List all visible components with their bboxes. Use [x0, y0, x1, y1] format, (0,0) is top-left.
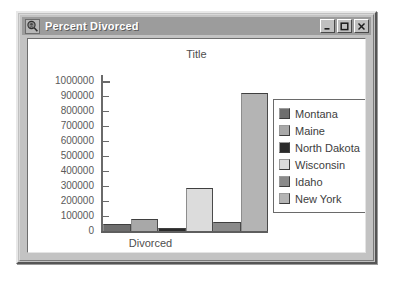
legend-swatch-icon [279, 108, 290, 119]
y-tick-label: 200000 [61, 196, 94, 206]
chart-title: Title [28, 48, 365, 60]
legend-item[interactable]: North Dakota [279, 139, 361, 156]
screenshot-root: Percent Divorced [0, 0, 399, 286]
application-window: Percent Divorced [16, 11, 377, 264]
x-axis-line [101, 231, 268, 233]
y-tick-label: 1000000 [55, 76, 94, 86]
y-tick-label: 100000 [61, 211, 94, 221]
window-controls [320, 19, 369, 33]
legend-item-label: Idaho [295, 176, 323, 188]
bar-montana[interactable] [103, 224, 131, 231]
bar-new-york[interactable] [241, 93, 269, 231]
x-axis-label: Divorced [58, 237, 243, 249]
legend-swatch-icon [279, 193, 290, 204]
legend-swatch-icon [279, 159, 290, 170]
y-tick-label: 600000 [61, 136, 94, 146]
y-tick-label: 400000 [61, 166, 94, 176]
legend-swatch-icon [279, 176, 290, 187]
bar-series [103, 75, 268, 231]
y-tick-label: 800000 [61, 106, 94, 116]
bar-maine[interactable] [131, 219, 159, 231]
window-title: Percent Divorced [45, 20, 320, 32]
y-tick-label: 500000 [61, 151, 94, 161]
y-tick-label: 700000 [61, 121, 94, 131]
legend-item[interactable]: Maine [279, 122, 361, 139]
y-tick-label: 900000 [61, 91, 94, 101]
chart-legend: MontanaMaineNorth DakotaWisconsinIdahoNe… [273, 99, 366, 213]
legend-item-label: Maine [295, 125, 325, 137]
plot-area [101, 75, 268, 233]
legend-item-label: New York [295, 193, 341, 205]
legend-item[interactable]: Wisconsin [279, 156, 361, 173]
y-axis-labels: 0100000200000300000400000500000600000700… [28, 75, 96, 233]
maximize-button[interactable] [337, 19, 352, 33]
minimize-button[interactable] [320, 19, 335, 33]
close-button[interactable] [354, 19, 369, 33]
legend-item-label: Wisconsin [295, 159, 345, 171]
magnifier-chart-icon [25, 19, 40, 34]
legend-item-label: North Dakota [295, 142, 360, 154]
legend-item-label: Montana [295, 108, 338, 120]
y-tick-label: 0 [88, 226, 94, 236]
bar-wisconsin[interactable] [186, 188, 214, 231]
legend-item[interactable]: New York [279, 190, 361, 207]
bar-chart: Title 0100000200000300000400000500000600… [28, 39, 365, 252]
bar-idaho[interactable] [213, 222, 241, 231]
legend-swatch-icon [279, 125, 290, 136]
window-inner-frame: Percent Divorced [19, 14, 374, 261]
legend-item[interactable]: Montana [279, 105, 361, 122]
legend-swatch-icon [279, 142, 290, 153]
title-bar[interactable]: Percent Divorced [22, 17, 371, 35]
legend-item[interactable]: Idaho [279, 173, 361, 190]
chart-client-area: Title 0100000200000300000400000500000600… [27, 38, 366, 253]
y-tick-label: 300000 [61, 181, 94, 191]
